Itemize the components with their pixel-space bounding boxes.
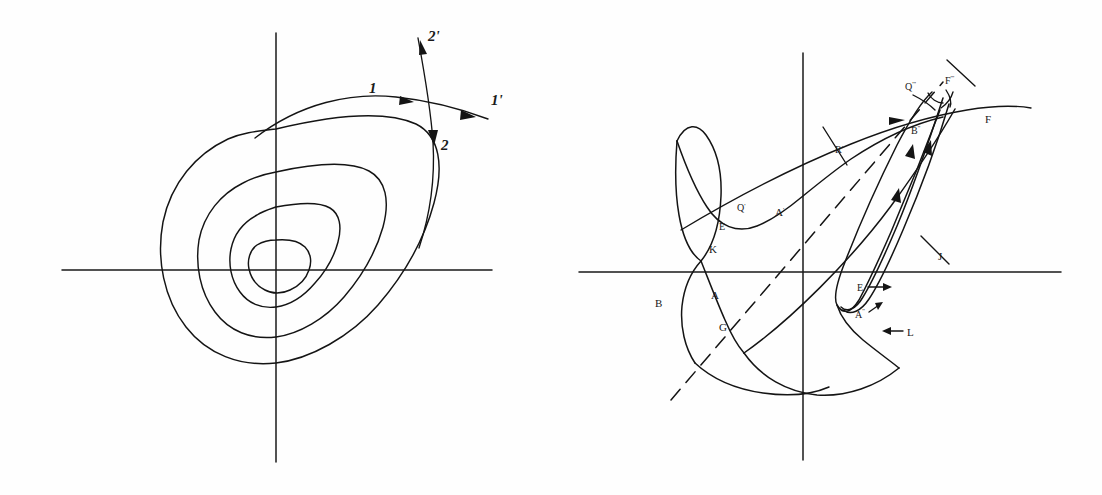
panel-left-phase-portrait: 1 1' 2 2' (0, 0, 551, 495)
label-A-prime: A' (775, 206, 784, 218)
label-A: A (711, 289, 719, 301)
annotation-arrow-L-head (882, 327, 891, 335)
orbit-outer-1 (161, 116, 440, 364)
arrowhead-lobe-low (891, 188, 901, 203)
right-panel-canvas: Q''' F''' B'' F R' Q' A' E K J B A G E A… (551, 0, 1102, 495)
arrowhead-upper-left-branch (889, 117, 905, 125)
label-Q-prime: Q' (737, 202, 746, 213)
panel-right-homoclinic-tangle: Q''' F''' B'' F R' Q' A' E K J B A G E A… (551, 0, 1102, 495)
label-B: B (655, 297, 662, 309)
label-B-double-prime: B'' (911, 124, 920, 136)
tangle-bottom-arc (744, 353, 899, 395)
left-label-1-prime: 1' (491, 92, 503, 108)
left-label-2-prime: 2' (427, 28, 440, 44)
arrowhead-curve-1-a (399, 96, 414, 105)
annotation-arrow-E-head (883, 283, 892, 291)
label-F-triple-prime: F''' (945, 74, 954, 86)
left-label-1: 1 (369, 80, 377, 96)
label-K: K (709, 243, 717, 255)
tangle-lower-swing (695, 363, 829, 395)
right-panel-label-group: Q''' F''' B'' F R' Q' A' E K J B A G E A… (655, 74, 991, 338)
tangle-branch-outer-right (744, 109, 955, 353)
label-F: F (985, 113, 991, 125)
orbit-inner-4 (248, 240, 310, 293)
label-Q-triple-prime: Q''' (905, 80, 916, 92)
label-E-lower: E (857, 282, 863, 293)
label-G: G (719, 321, 727, 333)
label-L: L (907, 326, 914, 338)
figure-sheet: 1 1' 2 2' (0, 0, 1102, 495)
arrowhead-curve-2-a (419, 40, 427, 55)
tangle-narrow-lobe-left (835, 92, 940, 311)
tangle-left-cusp-upper (676, 141, 701, 363)
label-A-double-prime: A'' (855, 307, 865, 320)
annotation-arrow-A2-head (875, 302, 883, 310)
label-R-prime: R' (835, 144, 843, 155)
orbit-outer-2 (198, 164, 387, 337)
arrowhead-lobe-upper (905, 144, 915, 159)
manifold-curve-1 (255, 96, 488, 138)
stable-manifold-incoming (681, 106, 1031, 230)
tangle-lobe-return-to-L (837, 305, 899, 368)
label-E-upper: E (719, 221, 725, 232)
manifold-curve-2 (418, 38, 433, 248)
tick-marker-upper-right (947, 60, 975, 86)
label-J: J (938, 250, 943, 262)
tick-marker-J (921, 236, 949, 264)
left-panel-canvas: 1 1' 2 2' (0, 0, 551, 495)
left-label-2: 2 (440, 137, 449, 153)
